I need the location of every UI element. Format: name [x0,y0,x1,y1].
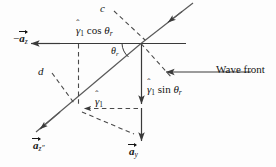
a-symbol: a [129,145,135,157]
incident-ray-line [141,3,193,44]
gamma-subscript: 1 [151,88,155,97]
dashed-line-c [114,11,145,40]
a-symbol: a [33,139,39,151]
unit-vector-minus-az-label: −az [13,33,28,46]
dashed-wave-front-line [141,44,172,79]
gamma-unit-vector-label: ˆγ1 [95,96,103,109]
z-subscript: z [25,37,28,46]
vector-arrow-icon [32,138,40,139]
unit-vector-az-double-prime-label: az″ [33,140,45,153]
theta-subscript: r [110,29,113,38]
dashed-wave-front-lower [82,112,134,134]
hat-accent-icon: ˆ [76,20,79,29]
vector-arrow-icon [19,31,27,32]
theta-subscript: r [116,50,119,57]
ray-label-c: c [100,3,105,14]
a-symbol: a [19,32,25,44]
hat-accent-icon: ˆ [147,79,150,88]
wave-front-diagram: c d ˆγ1 cos θr ˆγ1 sin θr ˆγ1 θr Wave fr… [0,0,276,167]
gamma-sin-theta-label: ˆγ1 sin θr [147,84,182,97]
gamma-subscript: 1 [99,100,103,109]
reflected-ray-arrow [40,112,60,129]
incident-ray-arrow [168,12,182,23]
ray-label-d: d [38,66,44,77]
angle-theta-r-label: θr [111,46,119,58]
gamma-subscript: 1 [80,29,84,38]
sin-function: sin [158,83,171,95]
vector-arrow-icon [128,144,136,145]
double-prime-mark: ″ [41,144,44,153]
wave-front-label: Wave front [216,64,265,75]
dashed-line-d [52,73,74,103]
unit-vector-ay-label: ay [129,146,138,159]
cos-function: cos [87,24,102,36]
gamma-cos-theta-label: ˆγ1 cos θr [76,25,113,38]
theta-subscript: r [179,88,182,97]
hat-accent-icon: ˆ [95,91,98,100]
